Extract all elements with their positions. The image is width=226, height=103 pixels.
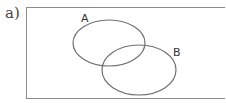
set-b-label: B — [173, 46, 181, 59]
venn-diagram: A B — [0, 0, 225, 103]
set-a-label: A — [81, 12, 89, 25]
universe-rectangle — [27, 8, 226, 99]
set-b-ellipse — [102, 45, 176, 95]
set-a-ellipse — [73, 20, 145, 66]
